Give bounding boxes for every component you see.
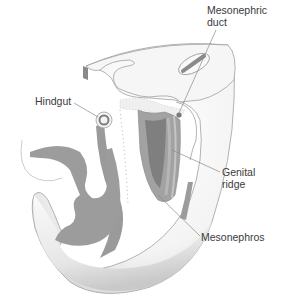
label-hindgut: Hindgut: [35, 95, 71, 107]
label-line: Hindgut: [35, 95, 71, 107]
label-line: Genital: [222, 166, 255, 178]
mesonephric-duct: [176, 112, 181, 117]
embryo-diagram: Mesonephric duct Hindgut Genital ridge M…: [0, 0, 282, 303]
label-line: ridge: [222, 178, 255, 190]
hindgut-ring: [96, 112, 112, 128]
embryo-illustration: [0, 0, 282, 303]
label-genital-ridge: Genital ridge: [222, 166, 255, 190]
label-line: Mesonephros: [201, 231, 265, 243]
label-mesonephros: Mesonephros: [201, 231, 265, 243]
label-line: Mesonephric: [207, 4, 267, 16]
leader-hindgut: [74, 103, 98, 117]
label-line: duct: [207, 16, 267, 28]
label-mesonephric-duct: Mesonephric duct: [207, 4, 267, 28]
